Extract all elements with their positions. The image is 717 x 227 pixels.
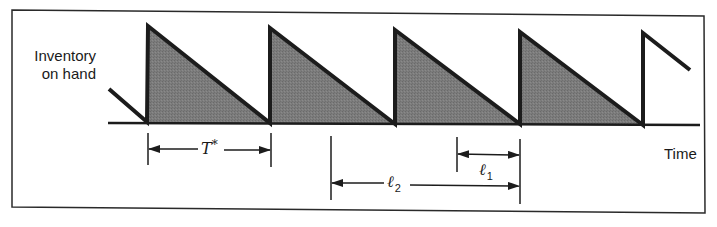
- y-axis-label: Inventory on hand: [14, 47, 96, 83]
- lead-time-2-label: ℓ2: [384, 173, 404, 192]
- y-axis-label-line-1: Inventory: [14, 47, 96, 65]
- lead-time-1-label: ℓ1: [476, 161, 496, 180]
- x-axis-label: Time: [664, 145, 697, 163]
- y-axis-label-line-2: on hand: [14, 65, 96, 83]
- inventory-sawtooth: [109, 26, 690, 125]
- cycle-time-label: T*: [198, 140, 221, 159]
- inventory-diagram: [0, 0, 717, 227]
